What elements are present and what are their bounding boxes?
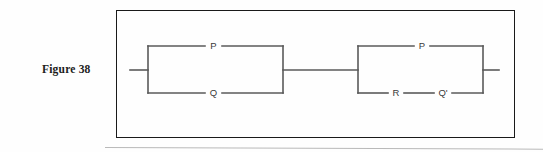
page-rule-line [105,147,543,150]
figure-frame-box [116,10,515,138]
figure-page: Figure 38 P Q P R Q' [0,0,543,152]
figure-caption: Figure 38 [42,63,91,75]
